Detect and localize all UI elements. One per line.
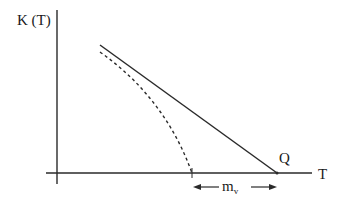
y-axis-label: K (T)	[17, 12, 51, 29]
x-axis-label: T	[318, 166, 327, 182]
point-q-marker	[276, 172, 279, 175]
diagram-canvas: K (T) T Q mv	[0, 0, 346, 204]
dashed-curve	[100, 52, 192, 173]
interval-label-main: m	[222, 178, 234, 194]
solid-line	[100, 45, 277, 173]
interval-label: mv	[222, 178, 239, 196]
point-q-label: Q	[279, 150, 290, 166]
interval-label-sub: v	[234, 186, 239, 196]
